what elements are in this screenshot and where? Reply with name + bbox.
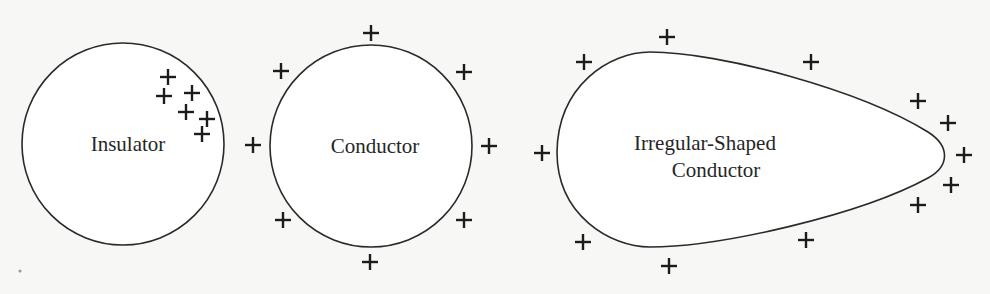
insulator-group: Insulator — [22, 43, 224, 245]
plus-charge-icon — [803, 54, 819, 70]
plus-charge-icon — [943, 177, 959, 193]
plus-charge-icon — [798, 232, 814, 248]
plus-charge-icon — [362, 254, 378, 270]
plus-charge-icon — [910, 93, 926, 109]
plus-charge-icon — [245, 137, 261, 153]
irregular-conductor-label-line2: Conductor — [672, 158, 761, 182]
irregular-conductor-group: Irregular-Shaped Conductor — [534, 29, 972, 274]
conductor-label: Conductor — [331, 134, 420, 158]
plus-charge-icon — [956, 147, 972, 163]
speck-mark — [19, 270, 22, 273]
irregular-conductor-label-line1: Irregular-Shaped — [634, 131, 776, 155]
plus-charge-icon — [659, 29, 675, 45]
plus-charge-icon — [910, 197, 926, 213]
plus-charge-icon — [575, 234, 591, 250]
insulator-label: Insulator — [91, 132, 166, 156]
plus-charge-icon — [275, 212, 291, 228]
plus-charge-icon — [481, 138, 497, 154]
plus-charge-icon — [534, 145, 550, 161]
plus-charge-icon — [456, 64, 472, 80]
plus-charge-icon — [940, 115, 956, 131]
conductor-group: Conductor — [245, 25, 497, 270]
plus-charge-icon — [576, 54, 592, 70]
plus-charge-icon — [363, 25, 379, 41]
plus-charge-icon — [273, 63, 289, 79]
plus-charge-icon — [456, 212, 472, 228]
plus-charge-icon — [661, 258, 677, 274]
charge-distribution-diagram: Insulator Conductor Irregular-Shaped Con… — [0, 0, 990, 294]
